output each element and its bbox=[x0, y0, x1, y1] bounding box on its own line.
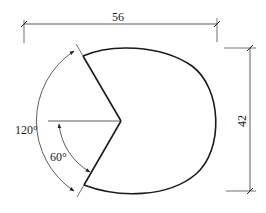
inner-angle-label: 60° bbox=[50, 150, 67, 164]
outer-angle-dimension: 120° bbox=[15, 44, 84, 197]
outer-angle-extension-top bbox=[76, 44, 83, 56]
lower-notch-edge bbox=[84, 121, 121, 185]
technical-drawing: 56 42 120° 60° bbox=[0, 0, 266, 213]
width-label: 56 bbox=[112, 10, 124, 24]
inner-angle-dimension: 60° bbox=[50, 124, 90, 172]
outer-angle-extension-bottom bbox=[77, 185, 84, 197]
width-dimension: 56 bbox=[21, 10, 220, 43]
height-label: 42 bbox=[235, 115, 249, 127]
outer-angle-label: 120° bbox=[15, 123, 38, 137]
upper-notch-edge bbox=[83, 56, 121, 121]
inner-angle-arc bbox=[59, 124, 90, 172]
height-dimension: 42 bbox=[224, 45, 256, 194]
